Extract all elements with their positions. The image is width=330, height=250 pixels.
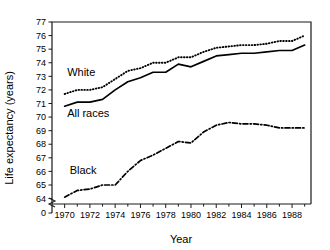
x-tick-label: 1984 (231, 210, 251, 220)
x-tick-label: 1970 (55, 210, 75, 220)
y-tick-label: 66 (36, 167, 46, 177)
x-axis-title: Year (170, 233, 193, 245)
series-label-all-races: All races (67, 107, 110, 119)
y-tick-label: 76 (36, 31, 46, 41)
y-tick-label: 68 (36, 139, 46, 149)
series-label-black: Black (70, 164, 97, 176)
x-tick-label: 1978 (156, 210, 176, 220)
y-tick-label: 75 (36, 44, 46, 54)
y-tick-label: 74 (36, 58, 46, 68)
y-tick-label: 77 (36, 17, 46, 27)
x-tick-label: 1974 (105, 210, 125, 220)
x-tick-label: 1988 (282, 210, 302, 220)
x-tick-label: 1972 (80, 210, 100, 220)
life-expectancy-line-chart: 6465666768697071727374757677 0 197019721… (0, 0, 330, 250)
chart-figure: 6465666768697071727374757677 0 197019721… (0, 0, 330, 250)
y-tick-label: 70 (36, 112, 46, 122)
y-axis-zero-tick-label: 0 (41, 208, 46, 218)
y-tick-label: 64 (36, 194, 46, 204)
x-tick-label: 1986 (257, 210, 277, 220)
y-tick-label: 72 (36, 85, 46, 95)
y-tick-label: 67 (36, 153, 46, 163)
x-tick-label: 1980 (181, 210, 201, 220)
y-axis-title: Life expectancy (years) (3, 71, 15, 185)
x-tick-label: 1976 (130, 210, 150, 220)
y-tick-label: 71 (36, 99, 46, 109)
y-tick-label: 69 (36, 126, 46, 136)
x-tick-label: 1982 (206, 210, 226, 220)
y-tick-label: 73 (36, 72, 46, 82)
series-label-white: White (67, 66, 95, 78)
y-tick-label: 65 (36, 180, 46, 190)
